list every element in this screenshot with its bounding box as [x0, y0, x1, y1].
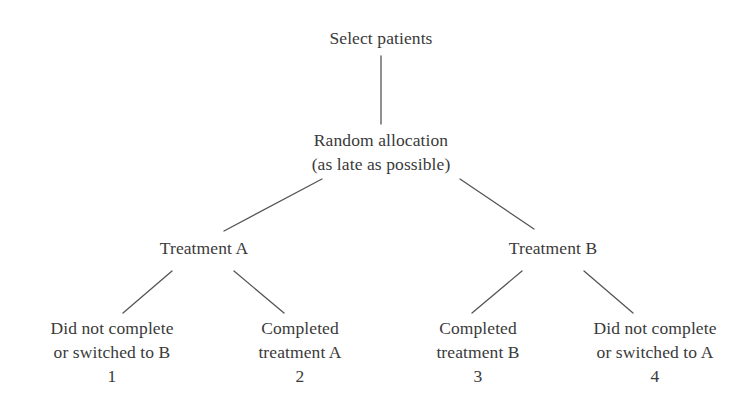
- connector-treatment-a-to-outcome-1: [123, 271, 172, 313]
- node-treatment-a-label: Treatment A: [160, 236, 248, 260]
- node-outcome-3-index: 3: [436, 364, 519, 388]
- node-random-allocation: Random allocation (as late as possible): [312, 128, 451, 176]
- flowchart-diagram: Select patients Random allocation (as la…: [0, 0, 751, 409]
- node-outcome-1-label-line1: Did not complete: [50, 316, 173, 340]
- node-outcome-4-label-line1: Did not complete: [593, 316, 716, 340]
- connector-allocation-to-treatment-a: [224, 179, 322, 231]
- node-random-allocation-label-line1: Random allocation: [312, 128, 451, 152]
- node-outcome-2: Completed treatment A 2: [258, 316, 341, 388]
- node-treatment-b-label: Treatment B: [509, 236, 597, 260]
- node-random-allocation-label-line2: (as late as possible): [312, 152, 451, 176]
- node-outcome-3: Completed treatment B 3: [436, 316, 519, 388]
- connector-treatment-a-to-outcome-2: [234, 271, 284, 313]
- node-outcome-4: Did not complete or switched to A 4: [593, 316, 716, 388]
- node-outcome-3-label-line1: Completed: [436, 316, 519, 340]
- node-outcome-3-label-line2: treatment B: [436, 340, 519, 364]
- connector-treatment-b-to-outcome-3: [472, 271, 522, 313]
- node-outcome-1: Did not complete or switched to B 1: [50, 316, 173, 388]
- node-select-patients: Select patients: [329, 26, 432, 50]
- node-treatment-b: Treatment B: [509, 236, 597, 260]
- node-outcome-2-label-line2: treatment A: [258, 340, 341, 364]
- node-outcome-4-index: 4: [593, 364, 716, 388]
- node-outcome-1-index: 1: [50, 364, 173, 388]
- node-outcome-2-index: 2: [258, 364, 341, 388]
- connector-allocation-to-treatment-b: [460, 179, 534, 229]
- node-outcome-1-label-line2: or switched to B: [50, 340, 173, 364]
- node-treatment-a: Treatment A: [160, 236, 248, 260]
- node-select-patients-label: Select patients: [329, 26, 432, 50]
- connector-treatment-b-to-outcome-4: [584, 271, 633, 313]
- node-outcome-2-label-line1: Completed: [258, 316, 341, 340]
- node-outcome-4-label-line2: or switched to A: [593, 340, 716, 364]
